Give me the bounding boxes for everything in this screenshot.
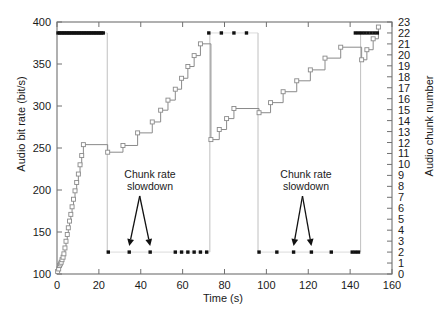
buffer-marker-low-8 (205, 250, 208, 253)
bitrate-marker-43 (339, 45, 343, 49)
bitrate-marker-8 (63, 246, 67, 250)
buffer-marker-low-13 (330, 250, 333, 253)
buffer-marker-high-27 (102, 31, 105, 34)
bitrate-marker-34 (217, 128, 221, 132)
y2-tick-label-14: 14 (398, 115, 410, 127)
x-tick-label-80: 80 (218, 279, 230, 291)
buffer-marker-high-39 (376, 31, 379, 34)
bitrate-marker-46 (371, 37, 375, 41)
bitrate-marker-40 (295, 79, 299, 83)
bitrate-marker-21 (81, 143, 85, 147)
bitrate-marker-25 (150, 120, 154, 124)
annotation-arrow-0-0-head (127, 239, 134, 247)
y2-tick-label-5: 5 (398, 213, 404, 225)
buffer-marker-low-6 (192, 250, 195, 253)
y2-tick-label-9: 9 (398, 169, 404, 181)
y2-tick-label-13: 13 (398, 126, 410, 138)
buffer-marker-low-0 (107, 250, 110, 253)
y-tick-label-100: 100 (33, 268, 51, 280)
x-tick-label-20: 20 (93, 279, 105, 291)
y2-tick-label-6: 6 (398, 202, 404, 214)
annotation-arrow-1-1-head (307, 239, 314, 246)
bitrate-marker-36 (232, 107, 236, 111)
bitrate-marker-41 (308, 68, 312, 72)
buffer-marker-high-33 (357, 31, 360, 34)
annotation-arrow-1-1-shaft (302, 196, 310, 239)
figure-canvas: 0204060801001201401601001502002503003504… (0, 0, 446, 316)
annotation-chunk-rate-slowdown-2: Chunk rate slowdown (260, 168, 352, 192)
y-tick-label-150: 150 (33, 226, 51, 238)
y2-tick-label-0: 0 (398, 268, 404, 280)
y2-tick-label-23: 23 (398, 16, 410, 28)
y2-tick-label-21: 21 (398, 38, 410, 50)
annotation-arrow-0-1-shaft (140, 196, 149, 239)
bitrate-marker-19 (78, 163, 82, 167)
bitrate-marker-35 (225, 117, 229, 121)
annotation-line-2: slowdown (260, 180, 352, 192)
buffer-marker-low-14 (351, 250, 354, 253)
bitrate-marker-26 (159, 108, 163, 112)
buffer-marker-low-3 (174, 250, 177, 253)
bitrate-marker-7 (62, 252, 66, 256)
bitrate-marker-11 (66, 226, 70, 230)
buffer-marker-high-36 (366, 31, 369, 34)
bitrate-marker-13 (69, 212, 73, 216)
bitrate-marker-42 (323, 56, 327, 60)
bitrate-marker-33 (209, 138, 213, 142)
buffer-marker-high-28 (207, 31, 210, 34)
y2-tick-label-10: 10 (398, 158, 410, 170)
y2-tick-label-7: 7 (398, 191, 404, 203)
y2-tick-label-17: 17 (398, 82, 410, 94)
bitrate-marker-22 (106, 150, 110, 154)
bitrate-marker-38 (269, 101, 273, 105)
y2-tick-label-22: 22 (398, 27, 410, 39)
y2-tick-label-8: 8 (398, 180, 404, 192)
bitrate-marker-45 (365, 48, 369, 52)
buffer-marker-high-30 (232, 31, 235, 34)
annotation-arrow-1-0-head (291, 239, 298, 246)
y-axis-right-label: Audio chunk number (423, 71, 435, 181)
bitrate-marker-9 (64, 239, 68, 243)
bitrate-marker-30 (186, 65, 190, 69)
bitrate-marker-15 (72, 197, 76, 201)
y-tick-label-200: 200 (33, 184, 51, 196)
buffer-marker-high-34 (360, 31, 363, 34)
buffer-marker-low-15 (354, 250, 357, 253)
chart-plot-area: 0204060801001201401601001502002503003504… (0, 0, 446, 316)
y2-tick-label-3: 3 (398, 235, 404, 247)
y-tick-label-400: 400 (33, 16, 51, 28)
buffer-marker-high-29 (220, 31, 223, 34)
buffer-marker-low-10 (275, 250, 278, 253)
annotation-arrow-0-0-shaft (131, 196, 140, 239)
bitrate-marker-16 (73, 189, 77, 193)
x-tick-label-140: 140 (341, 279, 359, 291)
buffer-marker-high-32 (354, 31, 357, 34)
y-tick-label-250: 250 (33, 142, 51, 154)
y-tick-label-350: 350 (33, 58, 51, 70)
bitrate-marker-18 (76, 172, 80, 176)
x-tick-label-100: 100 (257, 279, 275, 291)
buffer-marker-high-31 (245, 31, 248, 34)
bitrate-marker-20 (80, 154, 84, 158)
y2-tick-label-12: 12 (398, 137, 410, 149)
x-tick-label-60: 60 (177, 279, 189, 291)
bitrate-marker-12 (68, 219, 72, 223)
buffer-marker-low-16 (357, 250, 360, 253)
annotation-line-1: Chunk rate (104, 168, 196, 180)
annotation-chunk-rate-slowdown-1: Chunk rate slowdown (104, 168, 196, 192)
bitrate-marker-47 (376, 25, 380, 29)
bitrate-marker-24 (136, 131, 140, 135)
annotation-line-1: Chunk rate (260, 168, 352, 180)
buffer-marker-low-11 (292, 250, 295, 253)
buffer-marker-low-9 (257, 250, 260, 253)
x-tick-label-40: 40 (135, 279, 147, 291)
y2-tick-label-2: 2 (398, 246, 404, 258)
x-axis-label: Time (s) (0, 292, 446, 304)
bitrate-marker-32 (198, 42, 202, 46)
x-tick-label-160: 160 (383, 279, 401, 291)
y2-tick-label-19: 19 (398, 60, 410, 72)
annotation-arrow-1-0-shaft (295, 196, 303, 239)
bitrate-marker-39 (281, 90, 285, 94)
annotation-arrow-0-1-head (145, 239, 152, 247)
y2-tick-label-15: 15 (398, 104, 410, 116)
